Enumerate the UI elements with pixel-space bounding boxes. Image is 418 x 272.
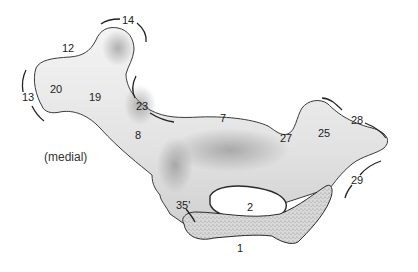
label-1: 1 — [237, 243, 243, 254]
view-label: (medial) — [44, 151, 87, 163]
label-27: 27 — [280, 133, 292, 144]
bone-illustration — [0, 0, 418, 272]
label-28: 28 — [351, 115, 363, 126]
label-14: 14 — [122, 15, 134, 26]
label-7: 7 — [220, 113, 226, 124]
label-19: 19 — [89, 92, 101, 103]
label-25: 25 — [318, 128, 330, 139]
label-35-prime: 35' — [176, 200, 190, 211]
arc-13-top — [22, 70, 26, 92]
label-2: 2 — [247, 202, 253, 213]
label-23: 23 — [136, 101, 148, 112]
label-12: 12 — [62, 43, 74, 54]
shade-14-head — [102, 30, 134, 66]
shade-8 — [157, 137, 193, 193]
arc-14-left — [101, 19, 120, 24]
label-20: 20 — [50, 84, 62, 95]
anatomical-figure: (medial) 14 12 13 20 19 23 8 7 27 25 28 … — [0, 0, 418, 272]
label-13: 13 — [22, 92, 34, 103]
arc-29-bottom — [345, 185, 352, 198]
label-29: 29 — [351, 175, 363, 186]
arc-14-right — [137, 23, 146, 42]
arc-13-bottom — [32, 106, 44, 121]
label-8: 8 — [135, 130, 141, 141]
arc-29-top — [360, 161, 381, 175]
